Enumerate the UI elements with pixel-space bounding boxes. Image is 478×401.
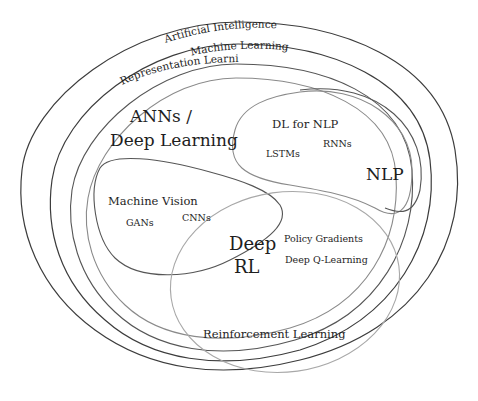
label-nlp: NLP <box>366 164 404 184</box>
label-deep: Deep <box>229 233 276 254</box>
label-lstms: LSTMs <box>266 148 300 159</box>
label-reinforcement-learning: Reinforcement Learning <box>203 327 346 341</box>
reinforcement-learning-region-boundary <box>159 177 412 387</box>
ai-venn-diagram: Artificial Intelligence Machine Learning… <box>0 0 478 401</box>
label-policy-gradients: Policy Gradients <box>284 233 363 244</box>
label-deep-q-learning: Deep Q-Learning <box>285 254 368 265</box>
label-gans: GANs <box>126 217 154 228</box>
label-dl-for-nlp: DL for NLP <box>272 117 339 131</box>
ai-region-boundary <box>21 22 458 370</box>
label-cnns: CNNs <box>182 212 211 223</box>
label-rl: RL <box>234 256 260 277</box>
nlp-region-boundary <box>300 89 421 212</box>
label-deep-learning: Deep Learning <box>110 130 238 150</box>
label-machine-vision: Machine Vision <box>108 194 198 208</box>
label-rnns: RNNs <box>323 138 352 149</box>
label-anns: ANNs / <box>129 106 192 126</box>
